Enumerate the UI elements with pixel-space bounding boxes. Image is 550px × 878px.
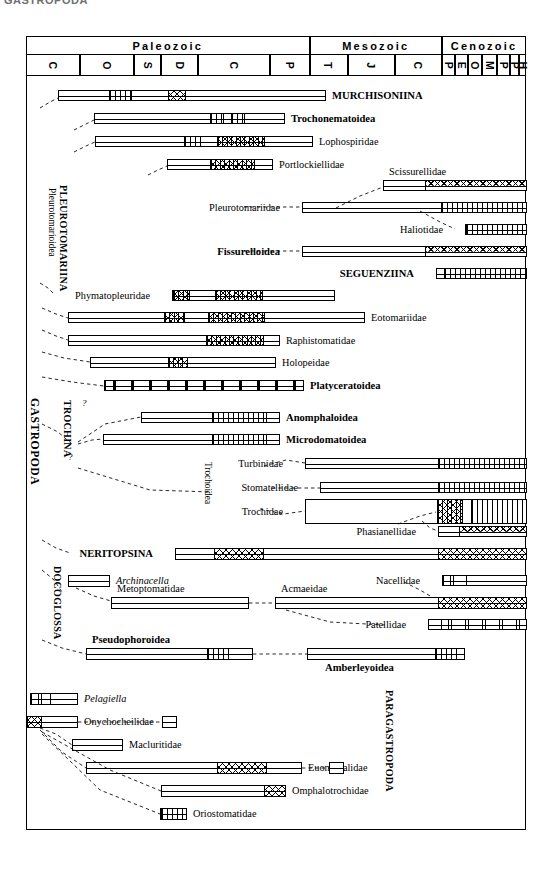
taxon-label-murchisoniina: MURCHISONIINA (332, 91, 423, 102)
period-label: J (366, 62, 377, 68)
hatch-segment-vert (466, 225, 527, 234)
range-bar-trochonematoidea (94, 113, 285, 124)
period-cell-paleocene: P (442, 55, 455, 76)
range-bar-oriostomatidae (160, 808, 187, 820)
range-bar-stomatellidae (320, 482, 527, 493)
hatch-segment-vert (212, 413, 267, 422)
taxon-label-pseudophoroidea: Pseudophoroidea (92, 635, 170, 646)
chart-frame (26, 36, 526, 830)
hatch-segment-xv (164, 313, 185, 322)
period-label: M (484, 61, 495, 70)
hatch-segment-vert (444, 269, 527, 278)
hatch-segment-xs (27, 717, 42, 727)
range-bar-archinacella (68, 575, 110, 587)
range-bar-haliotidae (465, 224, 527, 235)
hatch-segment-vert (471, 500, 527, 523)
taxon-label-acmaeidae: Acmaeidae (281, 584, 327, 594)
hatch-segment-vert (231, 114, 245, 123)
range-bar-euomphalidae_box (329, 762, 344, 774)
range-bar-raphistomatidae (68, 335, 280, 346)
period-label: C (229, 61, 240, 69)
range-bar-microdomatoidea (103, 434, 280, 445)
group-label-pleurotomarioidea: Pleurotomarioidea (47, 188, 56, 257)
taxon-label-eotomariidae: Eotomariidae (371, 313, 426, 323)
era-label: Paleozoic (27, 37, 309, 55)
group-label-docoglossa: DOCOGLOSSA (52, 566, 62, 640)
period-cell-devonian: D (161, 55, 198, 76)
hatch-segment-xv (215, 291, 263, 300)
hatch-segment-xv (210, 160, 255, 169)
qm-trochina-b: ? (68, 452, 73, 462)
hatch-segment-sparse (31, 694, 51, 704)
taxon-label-pelagiella: Pelagiella (84, 694, 126, 704)
era-cell-cenozoic: Cenozoic (442, 36, 526, 55)
period-label: P (443, 61, 454, 68)
group-label-trochina: TROCHINA (62, 400, 72, 457)
hatch-segment-vert (161, 809, 187, 819)
taxon-label-holopeidae: Holopeidae (282, 358, 329, 368)
hatch-segment-xs (438, 598, 527, 608)
taxon-label-raphistomatidae: Raphistomatidae (286, 336, 355, 346)
taxon-label-oriostomatidae: Oriostomatidae (193, 809, 256, 819)
range-bar-onychocheilidae_box (162, 716, 177, 728)
range-bar-anomphaloidea (141, 412, 280, 423)
range-bar-murchisoniina (58, 90, 326, 101)
group-label-pleurotomariina: PLEUROTOMARIINA (58, 185, 68, 292)
range-bar-macluritidae (72, 739, 123, 751)
taxon-label-fissurelloidea: Fissurelloidea (217, 247, 280, 258)
taxon-label-haliotidae: Haliotidae (400, 225, 443, 235)
taxon-label-scissurellidae: Scissurellidae (389, 167, 446, 177)
hatch-segment-xtop (425, 247, 527, 256)
range-chart-figure: GASTROPODA PaleozoicMesozoicCenozoic COS… (0, 0, 550, 878)
taxon-label-phymatopleuridae: Phymatopleuridae (75, 291, 150, 301)
group-label-paragastropoda: PARAGASTROPODA (384, 690, 394, 792)
range-bar-acmaeidae (275, 597, 527, 609)
taxon-label-portlockiellidae: Portlockiellidae (279, 160, 344, 170)
era-cell-mesozoic: Mesozoic (310, 36, 443, 55)
hatch-segment-vert (184, 137, 201, 146)
era-row: PaleozoicMesozoicCenozoic (26, 36, 526, 55)
period-cell-cambrian: C (26, 55, 80, 76)
qm-trochina-a: ? (82, 398, 87, 408)
hatch-segment-sparse (443, 576, 467, 585)
taxon-label-phasianellidae: Phasianellidae (357, 527, 416, 537)
hatch-segment-vert (109, 91, 132, 100)
group-label-trochoidea: Trochoidea (203, 462, 212, 504)
range-bar-seguenziina (436, 268, 527, 279)
hatch-segment-xs (438, 549, 527, 559)
period-label: T (323, 62, 334, 68)
period-cell-cretaceous: C (395, 55, 443, 76)
taxon-label-omphalotrochidae: Omphalotrochidae (292, 786, 369, 796)
period-row: COSDCPTJCPEOMPPH (26, 55, 526, 76)
group-label-gastropoda: GASTROPODA (29, 398, 41, 485)
taxon-label-seguenziina: SEGUENZIINA (340, 269, 414, 280)
era-label: Mesozoic (311, 37, 442, 55)
hatch-segment-vert (435, 649, 457, 659)
hatch-segment-vert (438, 483, 527, 492)
range-bar-metoptomatidae (111, 597, 249, 609)
range-bar-scissurellidae (383, 180, 527, 191)
taxon-label-stomatellidae: Stomatellidae (241, 483, 298, 493)
range-bar-onychocheilidae (26, 716, 78, 728)
range-bar-amberleyoidea (307, 648, 465, 660)
taxon-label-amberleyoidea: Amberleyoidea (325, 663, 394, 674)
range-bar-pseudophoroidea (86, 648, 253, 660)
hatch-segment-sparse (441, 620, 527, 629)
hatch-segment-xs (264, 786, 286, 796)
hatch-segment-xtop (425, 181, 527, 190)
hatch-segment-vert (207, 649, 229, 659)
period-cell-jurassic: J (348, 55, 395, 76)
hatch-segment-xv (206, 336, 264, 345)
period-cell-permian: P (270, 55, 310, 76)
taxon-label-patellidae: Patellidae (365, 620, 406, 630)
period-cell-miocene: M (482, 55, 497, 76)
taxon-label-lophospiridae: Lophospiridae (319, 137, 378, 147)
hatch-segment-vert (441, 203, 527, 212)
geologic-timescale: PaleozoicMesozoicCenozoic COSDCPTJCPEOMP… (26, 36, 526, 76)
period-label: S (142, 61, 153, 68)
era-cell-paleozoic: Paleozoic (26, 36, 310, 55)
range-bar-neritopsina (175, 548, 527, 560)
hatch-segment-xs (168, 91, 186, 100)
cutoff-title: GASTROPODA (4, 0, 88, 6)
taxon-label-anomphaloidea: Anomphaloidea (286, 413, 358, 424)
